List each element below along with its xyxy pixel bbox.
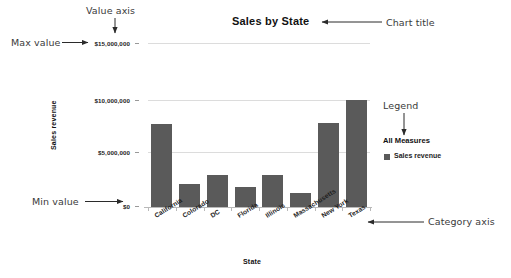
category-tick [204, 207, 205, 211]
category-tick [259, 207, 260, 211]
ytick-label-15m: $15,000,000 [58, 40, 130, 47]
legend-swatch-sales-revenue[interactable] [384, 154, 390, 160]
annotation-chart-title: Chart title [386, 17, 435, 28]
ytick-mark-10m [135, 100, 139, 101]
chart-title: Sales by State [232, 15, 309, 27]
y-axis-title: Sales revenue [50, 100, 57, 150]
gridline-15m [148, 43, 370, 44]
annotation-legend: Legend [383, 100, 419, 111]
category-tick [342, 207, 343, 211]
category-tick [231, 207, 232, 211]
ytick-label-10m: $10,000,000 [58, 97, 130, 104]
category-tick [287, 207, 288, 211]
category-tick [370, 207, 371, 211]
ytick-label-5m: $5,000,000 [58, 149, 130, 156]
annotation-max-value: Max value [11, 37, 61, 48]
bar-texas[interactable] [346, 100, 367, 207]
annotation-category-axis: Category axis [428, 216, 495, 227]
category-label-dc[interactable]: DC [209, 208, 221, 219]
bar-dc[interactable] [207, 175, 228, 207]
ytick-mark-0 [135, 206, 139, 207]
annotation-value-axis: Value axis [86, 5, 135, 16]
ytick-mark-5m [135, 152, 139, 153]
category-tick [315, 207, 316, 211]
legend-title: All Measures [383, 136, 430, 145]
x-axis-title: State [243, 258, 261, 265]
ytick-mark-15m [135, 43, 139, 44]
plot-area [148, 100, 370, 207]
chart-figure: Max value Value axis Chart title Legend … [0, 0, 511, 278]
category-tick [176, 207, 177, 211]
legend-label-sales-revenue[interactable]: Sales revenue [394, 152, 441, 159]
bar-california[interactable] [151, 124, 172, 208]
category-tick [148, 207, 149, 211]
ytick-label-0: $0 [58, 203, 130, 210]
